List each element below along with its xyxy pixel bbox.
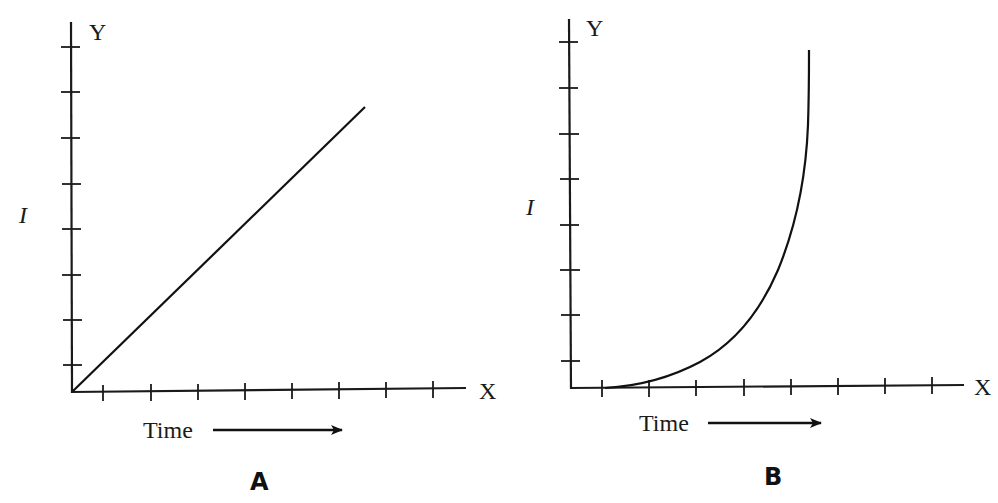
panel-label-a: A (250, 468, 269, 496)
y-axis-a (71, 22, 72, 393)
y-axis-letter-a: Y (89, 19, 106, 45)
x-axis-label-a: Time (143, 417, 193, 443)
panel-label-b: B (764, 463, 782, 491)
x-axis-letter-a: X (479, 378, 496, 404)
y-axis-label-b: I (525, 194, 535, 220)
y-axis-b (569, 19, 571, 389)
x-axis-a (71, 388, 466, 392)
x-axis-letter-b: X (974, 374, 991, 400)
chart-b: Y X I Time B (525, 15, 991, 491)
x-axis-label-b: Time (639, 410, 689, 436)
y-axis-label-a: I (18, 202, 28, 228)
figure: Y X I Time A (0, 0, 998, 503)
series-curve-b (605, 50, 809, 388)
y-axis-letter-b: Y (586, 15, 603, 41)
series-line-a (73, 107, 365, 391)
chart-a: Y X I Time A (18, 19, 496, 496)
